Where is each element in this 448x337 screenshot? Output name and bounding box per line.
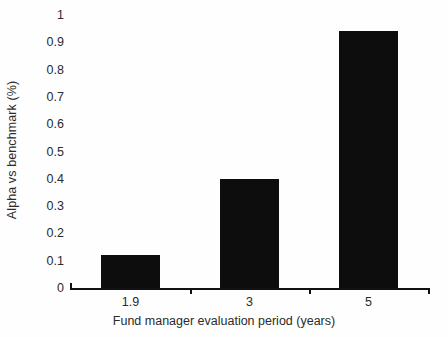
bar: [101, 255, 160, 288]
x-axis-tick-mark: [428, 288, 430, 294]
y-axis-tick-label: 0.5: [20, 145, 64, 158]
y-axis-tick-label: 0.7: [20, 91, 64, 104]
y-axis-tick-labels: 00.10.20.30.40.50.60.70.80.91: [14, 0, 64, 337]
y-axis-tick-label: 0: [20, 282, 64, 295]
x-axis-tick-label: 5: [329, 296, 409, 309]
y-axis-tick-label: 0.3: [20, 200, 64, 213]
bar-chart: Alpha vs benchmark (%) 00.10.20.30.40.50…: [0, 0, 448, 337]
x-axis-tick-label: 1.9: [91, 296, 171, 309]
x-axis-title: Fund manager evaluation period (years): [0, 314, 448, 328]
x-axis-line: [70, 288, 429, 290]
y-axis-tick-label: 0.6: [20, 118, 64, 131]
plot-area: [71, 15, 428, 288]
y-axis-tick-label: 0.1: [20, 254, 64, 267]
y-axis-tick-label: 0.2: [20, 227, 64, 240]
y-axis-tick-label: 0.8: [20, 63, 64, 76]
bar: [339, 31, 398, 288]
y-axis-origin-tick: [70, 283, 72, 290]
bar: [220, 179, 279, 288]
y-axis-tick-label: 1: [20, 9, 64, 22]
y-axis-tick-label: 0.9: [20, 36, 64, 49]
x-axis-tick-mark: [190, 288, 192, 294]
y-axis-tick-label: 0.4: [20, 173, 64, 186]
x-axis-tick-label: 3: [210, 296, 290, 309]
x-axis-tick-mark: [309, 288, 311, 294]
